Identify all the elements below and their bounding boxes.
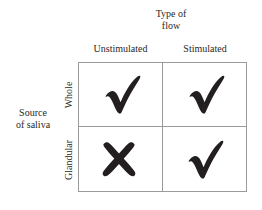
column-header-stimulated: Stimulated [163,43,247,55]
cell-whole-stimulated [163,63,247,127]
row-group-title-line-1: Source [6,107,60,119]
matrix-grid [78,62,247,192]
column-header-unstimulated: Unstimulated [78,43,163,55]
check-icon [101,74,143,114]
check-icon [184,139,226,179]
column-group-title-line-2: flow [128,20,214,32]
row-group-title: Source of saliva [6,107,60,130]
caption-remnant [0,201,262,210]
check-icon [185,74,227,114]
column-group-title-line-1: Type of [128,8,214,20]
column-group-title: Type of flow [128,8,214,31]
row-header-glandular: Glandular [62,127,76,193]
cell-glandular-unstimulated [79,127,163,191]
cell-glandular-stimulated [163,127,247,191]
row-group-title-line-2: of saliva [6,119,60,131]
cross-icon [99,141,139,179]
row-header-whole: Whole [62,62,76,128]
cell-whole-unstimulated [79,63,163,127]
